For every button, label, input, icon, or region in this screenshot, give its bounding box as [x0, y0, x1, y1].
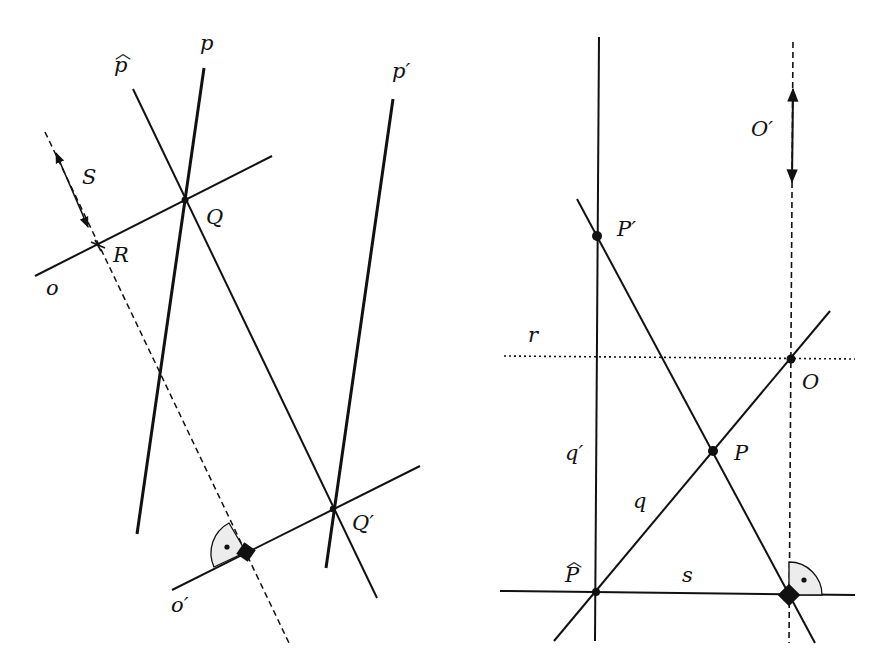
- point-q: [182, 197, 189, 204]
- geometry-diagram: p ︿ p p′ S Q R o o′ Q′: [0, 0, 884, 667]
- point-p-hat: [592, 588, 600, 596]
- label-p-prime: p′: [392, 59, 410, 83]
- label-o-prime: o′: [171, 593, 189, 617]
- label-p-prime: P′: [616, 217, 636, 241]
- point-q-prime: [330, 506, 336, 512]
- line-r: [504, 356, 855, 359]
- label-r: R: [112, 243, 129, 267]
- right-angle-marker-left: [211, 523, 246, 567]
- line-p-prime: [326, 99, 393, 568]
- label-q-prime: q′: [565, 441, 583, 465]
- right-figure: O′ P′ r O q′ P q P ︿ s: [500, 37, 855, 643]
- line-q-prime: [595, 37, 599, 641]
- line-p-prime-p: [577, 199, 815, 643]
- label-s: S: [82, 165, 96, 189]
- label-q-prime: Q′: [352, 511, 374, 535]
- line-o-prime: [172, 466, 420, 590]
- line-p: [137, 68, 204, 534]
- left-figure: p ︿ p p′ S Q R o o′ Q′: [35, 31, 420, 643]
- point-p: [708, 446, 718, 456]
- label-p: P: [733, 441, 749, 465]
- label-q: q: [633, 489, 646, 513]
- line-o: [35, 156, 272, 276]
- label-q: Q: [206, 205, 223, 229]
- o-prime-distance-arrow: [792, 89, 793, 182]
- label-o-prime: O′: [751, 117, 773, 141]
- point-p-prime: [592, 231, 602, 241]
- p-hat-accent-icon: ︿: [115, 43, 131, 62]
- label-o: O: [802, 370, 819, 394]
- label-r: r: [528, 323, 540, 347]
- label-s: s: [682, 563, 693, 587]
- p-hat-accent-icon: ︿: [566, 551, 582, 570]
- label-o: o: [46, 276, 59, 300]
- point-o: [787, 355, 796, 364]
- label-p: p: [200, 31, 213, 55]
